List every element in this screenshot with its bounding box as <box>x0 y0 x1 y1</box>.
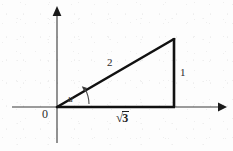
adjacent-side-label: √3 <box>116 111 129 124</box>
arrow-up-icon <box>53 6 62 16</box>
radicand-value: 3 <box>122 111 129 124</box>
opposite-side-label: 1 <box>180 67 186 78</box>
figure-canvas <box>0 0 233 151</box>
triangle-hypotenuse-side <box>57 39 174 107</box>
math-figure: 0 u 2 1 √3 <box>0 0 233 151</box>
arrow-right-icon <box>218 103 227 112</box>
hypotenuse-label: 2 <box>107 57 113 68</box>
angle-label: u <box>68 94 73 104</box>
origin-label: 0 <box>42 108 48 120</box>
radical-group: √3 <box>116 111 129 124</box>
